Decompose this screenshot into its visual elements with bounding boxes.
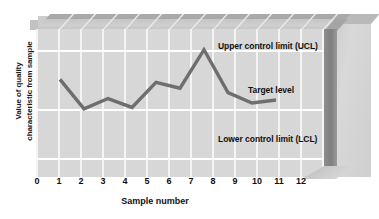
y-axis-title-line-1: Value of quality	[14, 0, 25, 186]
x-tick-10: 10	[247, 176, 267, 186]
x-axis-title: Sample number	[0, 196, 310, 206]
x-tick-6: 6	[159, 176, 179, 186]
x-tick-11: 11	[269, 176, 289, 186]
chart-plot-block	[36, 14, 364, 177]
x-axis-tick-labels: 0123456789101112	[37, 176, 309, 190]
x-tick-4: 4	[115, 176, 135, 186]
lcl-annotation-label: Lower control limit (LCL)	[218, 134, 317, 144]
x-tick-7: 7	[181, 176, 201, 186]
x-tick-3: 3	[93, 176, 113, 186]
x-tick-9: 9	[225, 176, 245, 186]
target-line	[36, 109, 324, 111]
x-tick-0: 0	[27, 176, 47, 186]
x-tick-12: 12	[291, 176, 311, 186]
x-tick-8: 8	[203, 176, 223, 186]
lcl-line	[36, 158, 324, 160]
block-top-face	[36, 14, 350, 30]
x-tick-2: 2	[71, 176, 91, 186]
x-tick-5: 5	[137, 176, 157, 186]
block-right-side-face	[324, 29, 337, 177]
x-tick-1: 1	[49, 176, 69, 186]
plot-area	[36, 29, 324, 177]
target-annotation-label: Target level	[248, 85, 294, 95]
ucl-annotation-label: Upper control limit (UCL)	[218, 41, 318, 51]
